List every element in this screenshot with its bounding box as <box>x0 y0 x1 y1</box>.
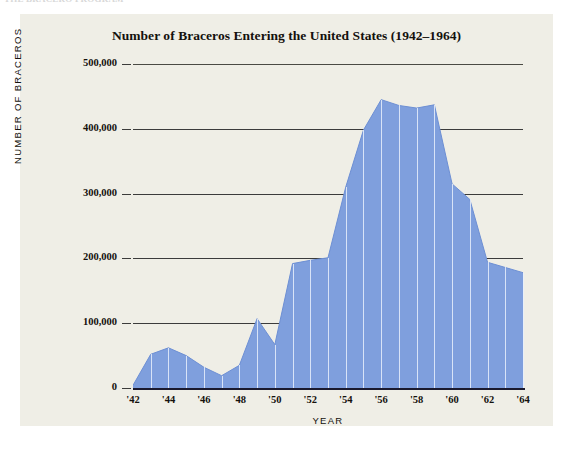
y-axis-tick-label: 0 <box>47 381 117 392</box>
y-axis-tick-mark <box>122 388 131 389</box>
year-rule <box>310 260 311 388</box>
y-axis-tick-label: 400,000 <box>47 122 117 133</box>
x-axis-tick-label: '60 <box>432 394 472 405</box>
year-rule <box>505 267 506 388</box>
year-rule <box>275 345 276 388</box>
x-axis-tick-label: '54 <box>326 394 366 405</box>
y-axis-tick-mark <box>122 323 131 324</box>
area-series <box>133 64 525 390</box>
year-rule <box>452 184 453 388</box>
year-rule <box>381 100 382 388</box>
x-axis-tick-label: '52 <box>290 394 330 405</box>
y-axis-tick-mark <box>122 129 131 130</box>
chart-title: Number of Braceros Entering the United S… <box>20 28 553 44</box>
x-axis-tick-label: '50 <box>255 394 295 405</box>
y-axis-tick-mark <box>122 258 131 259</box>
y-axis-tick-label: 100,000 <box>47 316 117 327</box>
year-rule <box>222 376 223 388</box>
x-axis-tick-label: '42 <box>113 394 153 405</box>
year-rule <box>488 262 489 388</box>
year-rule <box>399 105 400 388</box>
y-axis-tick-label: 200,000 <box>47 251 117 262</box>
x-axis-title: YEAR <box>133 415 523 426</box>
year-rule <box>434 105 435 388</box>
year-rule <box>151 354 152 388</box>
x-axis-tick-label: '46 <box>184 394 224 405</box>
y-axis-title: NUMBER OF BRACEROS <box>12 28 23 164</box>
plot-area <box>133 64 523 388</box>
x-axis-tick-label: '58 <box>397 394 437 405</box>
year-rule <box>257 319 258 388</box>
y-axis-tick-mark <box>122 194 131 195</box>
year-rule <box>470 199 471 388</box>
year-rule <box>523 273 524 388</box>
year-rule <box>168 348 169 388</box>
year-rule <box>417 108 418 388</box>
y-axis-tick-label: 500,000 <box>47 57 117 68</box>
x-axis-baseline <box>133 388 525 390</box>
x-axis-tick-label: '64 <box>503 394 543 405</box>
year-rule <box>239 365 240 388</box>
year-rule <box>186 356 187 388</box>
y-axis-tick-mark <box>122 64 131 65</box>
year-rule <box>293 264 294 388</box>
chart-figure-panel: Number of Braceros Entering the United S… <box>20 14 553 426</box>
y-axis-tick-label: 300,000 <box>47 187 117 198</box>
cut-off-caption: THE BRACERO PROGRAM <box>4 0 124 4</box>
year-rule <box>204 367 205 388</box>
x-axis-tick-label: '44 <box>148 394 188 405</box>
x-axis-tick-label: '62 <box>468 394 508 405</box>
year-rule <box>328 258 329 388</box>
x-axis-tick-label: '56 <box>361 394 401 405</box>
page-top-strip: THE BRACERO PROGRAM <box>0 0 573 14</box>
x-axis-tick-label: '48 <box>219 394 259 405</box>
year-rule <box>363 130 364 388</box>
year-rule <box>346 187 347 388</box>
